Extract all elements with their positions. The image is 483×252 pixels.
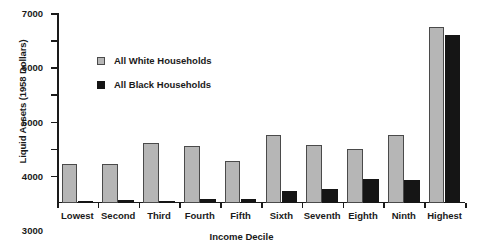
x-tick-label: Fifth: [230, 210, 251, 221]
x-tick-label: Third: [147, 210, 171, 221]
bar: [62, 164, 78, 203]
x-tick: [302, 203, 304, 208]
x-tick: [98, 203, 100, 208]
x-tick-label: Sixth: [270, 210, 293, 221]
y-tick: 6000: [51, 40, 57, 42]
bar: [143, 143, 159, 203]
y-tick-label: 4000: [22, 170, 43, 181]
x-tick: [179, 203, 181, 208]
legend-label-white: All White Households: [114, 55, 212, 66]
bar: [282, 191, 298, 203]
legend-item-black: All Black Households: [97, 79, 212, 90]
bar: [200, 199, 216, 203]
bar: [347, 149, 363, 203]
y-tick: 2000: [51, 149, 57, 151]
y-tick: 3000: [51, 122, 57, 124]
x-tick: [57, 203, 59, 208]
bar: [388, 135, 404, 203]
x-tick-label: Eighth: [348, 210, 378, 221]
x-tick-label: Highest: [427, 210, 462, 221]
x-tick: [465, 203, 467, 208]
bar: [404, 180, 420, 203]
bar: [225, 161, 241, 203]
legend-label-black: All Black Households: [114, 79, 211, 90]
y-tick: 5000: [51, 67, 57, 69]
bar: [363, 179, 379, 203]
legend-item-white: All White Households: [97, 55, 212, 66]
x-tick-label: Seventh: [304, 210, 341, 221]
bar: [322, 189, 338, 203]
x-tick-label: Lowest: [61, 210, 94, 221]
bar: [78, 201, 94, 203]
x-tick: [424, 203, 426, 208]
x-axis-title: Income Decile: [0, 231, 483, 242]
y-tick: 7000: [51, 13, 57, 15]
bar: [266, 135, 282, 203]
x-tick-label: Fourth: [185, 210, 215, 221]
bar: [184, 146, 200, 203]
y-axis-title: Liquid Assets (1958 Dollars): [17, 17, 28, 187]
bar: [445, 35, 461, 203]
x-tick: [383, 203, 385, 208]
bar: [241, 199, 257, 203]
legend-swatch-black-icon: [97, 81, 105, 89]
bar: [306, 145, 322, 203]
x-tick: [343, 203, 345, 208]
y-tick: 1000: [51, 176, 57, 178]
bar: [429, 27, 445, 203]
x-tick: [261, 203, 263, 208]
x-tick: [220, 203, 222, 208]
y-tick-label: 5000: [22, 116, 43, 127]
x-tick-label: Second: [101, 210, 135, 221]
plot-area: 1000200030004000500060007000 LowestSecon…: [57, 13, 465, 203]
y-tick-label: 7000: [22, 8, 43, 19]
bar-chart: Liquid Assets (1958 Dollars) 10002000300…: [0, 0, 483, 252]
bar: [102, 164, 118, 203]
y-tick-label: 6000: [22, 62, 43, 73]
bar: [159, 201, 175, 203]
legend-swatch-white-icon: [97, 57, 105, 65]
y-tick: 4000: [51, 94, 57, 96]
bar: [118, 200, 134, 203]
legend: All White Households All Black Household…: [97, 55, 212, 103]
x-tick-label: Ninth: [392, 210, 416, 221]
y-axis-line: [57, 13, 59, 203]
x-tick: [139, 203, 141, 208]
